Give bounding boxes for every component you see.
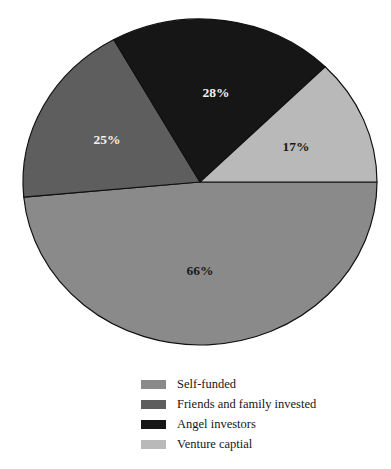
legend-item[interactable]: Venture captial (141, 434, 371, 454)
legend-item-label: Friends and family invested (177, 398, 316, 411)
pie-chart-svg: 66%25%28%17% (0, 0, 391, 360)
pie-slice-value-label: 17% (283, 139, 310, 154)
pie-chart-figure: 66%25%28%17% Self-fundedFriends and fami… (0, 0, 391, 469)
legend-item[interactable]: Friends and family invested (141, 394, 371, 414)
legend-item-label: Venture captial (177, 438, 252, 451)
legend-swatch-icon (141, 440, 166, 449)
pie-slice-value-label: 66% (187, 263, 214, 278)
legend-swatch-icon (141, 380, 166, 389)
legend-swatch-icon (141, 420, 166, 429)
pie-slices-group (23, 19, 377, 345)
legend-item[interactable]: Angel investors (141, 414, 371, 434)
legend-item-label: Angel investors (177, 418, 256, 431)
legend-item[interactable]: Self-funded (141, 374, 371, 394)
pie-slice-value-label: 25% (94, 132, 121, 147)
legend-swatch-icon (141, 400, 166, 409)
pie-slice-value-label: 28% (203, 85, 230, 100)
pie-chart-area: 66%25%28%17% (0, 0, 391, 360)
chart-legend: Self-fundedFriends and family investedAn… (141, 374, 371, 454)
legend-item-label: Self-funded (177, 378, 236, 391)
